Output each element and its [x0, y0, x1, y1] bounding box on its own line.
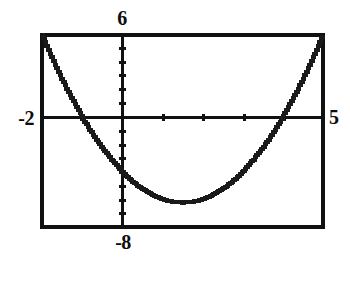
graph-figure: 6 -8 -2 5 — [0, 0, 350, 289]
y-min-label: -8 — [115, 232, 131, 252]
plot-area — [0, 0, 350, 289]
y-max-label: 6 — [117, 8, 127, 28]
window-border — [42, 35, 323, 227]
x-min-label: -2 — [18, 108, 34, 128]
x-max-label: 5 — [329, 107, 339, 127]
